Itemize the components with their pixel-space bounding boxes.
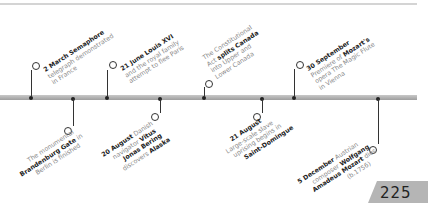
event-label: 30 September Premiere of Mozart's opera … — [305, 28, 380, 92]
timeline-bar — [0, 95, 417, 100]
event-label: 5 December Austrian composer Wolfgang Am… — [296, 134, 382, 204]
event-label: The monumental Brandenburg Gate in Berli… — [14, 125, 88, 184]
event-marker-icon — [32, 62, 40, 70]
connector-stem — [160, 99, 161, 113]
connector-stem — [294, 69, 295, 97]
event-marker-icon — [109, 61, 117, 69]
connector-stem — [73, 99, 74, 126]
connector-stem — [31, 70, 32, 97]
connector-stem — [204, 87, 205, 97]
connector-stem — [262, 99, 263, 113]
top-rule — [0, 3, 417, 5]
event-marker-icon — [296, 61, 304, 69]
event-label: 21 June Louis XVI and the royal family a… — [119, 31, 185, 85]
event-label: The Constitutional Act splits Canada int… — [201, 22, 268, 80]
event-marker-icon — [205, 80, 213, 88]
connector-stem — [378, 99, 379, 144]
event-label: 20 August Danish navigator Vitus Jonas B… — [100, 116, 171, 177]
page-number: 225 — [380, 184, 412, 202]
connector-stem — [107, 70, 108, 97]
